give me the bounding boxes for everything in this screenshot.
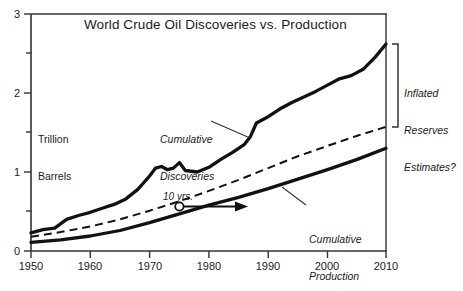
y-tick-label-0: 0 bbox=[0, 245, 20, 257]
x-tick-label-1980: 1980 bbox=[189, 260, 229, 272]
y-axis-ticks bbox=[24, 14, 31, 251]
production-label-line2: Production bbox=[309, 270, 362, 282]
inflated-reserves-bracket bbox=[392, 44, 398, 127]
bracket-shape bbox=[392, 44, 398, 127]
x-tick-label-1970: 1970 bbox=[130, 260, 170, 272]
cumulative-production-label: Cumulative Production bbox=[309, 208, 362, 291]
x-tick-label-2010: 2010 bbox=[366, 260, 406, 272]
y-axis-label: Trillion Barrels bbox=[38, 108, 71, 207]
figure-container: 3 2 1 0 1950 1960 1970 1980 1990 2000 20… bbox=[0, 0, 463, 291]
inflated-label-line2: Reserves bbox=[404, 124, 456, 136]
y-axis-label-line1: Trillion bbox=[38, 133, 71, 145]
discoveries-leader-line bbox=[211, 121, 250, 138]
inflated-label-line1: Inflated bbox=[404, 87, 456, 99]
y-tick-label-3: 3 bbox=[0, 8, 20, 20]
discoveries-label-line1: Cumulative bbox=[160, 133, 214, 145]
y-axis-label-line2: Barrels bbox=[38, 170, 71, 182]
y-tick-label-2: 2 bbox=[0, 87, 20, 99]
inflated-label-line3: Estimates? bbox=[404, 161, 456, 173]
chart-title: World Crude Oil Discoveries vs. Producti… bbox=[84, 17, 347, 33]
production-leader-line bbox=[282, 187, 306, 205]
ten-years-gap-label: 10 yrs. bbox=[163, 191, 193, 203]
y-tick-label-1: 1 bbox=[0, 166, 20, 178]
inflated-reserves-label: Inflated Reserves Estimates? bbox=[404, 62, 456, 198]
discoveries-label-line2: Discoveries bbox=[160, 170, 214, 182]
x-tick-label-1990: 1990 bbox=[248, 260, 288, 272]
x-tick-label-1960: 1960 bbox=[70, 260, 110, 272]
gap-arrow-head bbox=[235, 202, 248, 212]
x-tick-label-1950: 1950 bbox=[11, 260, 51, 272]
figure-caption bbox=[0, 283, 463, 291]
production-label-line1: Cumulative bbox=[309, 233, 362, 245]
